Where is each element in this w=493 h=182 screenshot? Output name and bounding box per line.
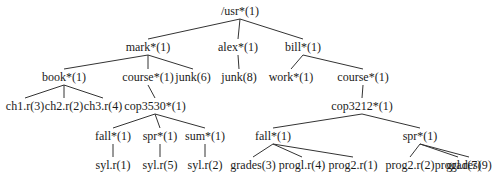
tree-node-syl-fall: syl.r(1) — [96, 159, 131, 171]
tree-node-cop3212: cop3212*(1) — [331, 100, 392, 112]
tree-edge — [273, 144, 353, 157]
tree-node-ch2: ch2.r(2) — [45, 100, 83, 112]
tree-node-fall-3530: fall*(1) — [95, 130, 131, 142]
tree-edge — [238, 19, 240, 39]
tree-node-grades3: grades(3) — [230, 159, 275, 171]
tree-node-ch3: ch3.r(4) — [84, 100, 122, 112]
tree-edge — [148, 19, 240, 39]
tree-node-sum-3530: sum*(1) — [185, 130, 225, 142]
tree-node-prog1-4: progl.r(4) — [279, 159, 325, 171]
tree-node-book: book*(1) — [42, 71, 86, 83]
tree-node-syl-sum: syl.r(2) — [188, 159, 223, 171]
tree-node-cop3530: cop3530*(1) — [124, 100, 185, 112]
tree-edge — [410, 144, 420, 157]
tree-node-ch1: ch1.r(3) — [6, 100, 44, 112]
tree-node-course-mark: course*(1) — [122, 71, 173, 83]
tree-edge — [64, 55, 148, 69]
tree-node-prog2-1: prog2.r(1) — [329, 159, 378, 171]
tree-node-grades9: grades(9) — [446, 159, 491, 171]
tree-node-usr: /usr*(1) — [221, 5, 259, 17]
tree-edge — [64, 85, 103, 98]
tree-edge — [25, 85, 64, 98]
tree-edge — [155, 114, 205, 128]
tree-node-bill: bill*(1) — [285, 41, 321, 53]
tree-node-mark: mark*(1) — [126, 41, 171, 53]
tree-edge — [273, 114, 362, 128]
tree-node-course-bill: course*(1) — [337, 71, 388, 83]
tree-node-junk8: junk(8) — [221, 71, 256, 83]
tree-node-syl-spr: syl.r(5) — [143, 159, 178, 171]
tree-edge — [238, 55, 239, 69]
tree-edge — [148, 85, 155, 98]
tree-edge — [362, 85, 363, 98]
tree-edges — [0, 0, 493, 182]
tree-edge — [253, 144, 273, 157]
tree-edge — [240, 19, 303, 39]
tree-node-alex: alex*(1) — [218, 41, 258, 53]
tree-node-work: work*(1) — [269, 71, 314, 83]
tree-edge — [291, 55, 303, 69]
tree-node-spr-3530: spr*(1) — [143, 130, 178, 142]
tree-node-fall-3212: fall*(1) — [255, 130, 291, 142]
tree-edge — [362, 114, 420, 128]
tree-edge — [155, 114, 160, 128]
tree-edge — [420, 144, 469, 157]
tree-node-junk6: junk(6) — [175, 71, 210, 83]
tree-edge — [113, 114, 155, 128]
tree-edge — [303, 55, 363, 69]
tree-node-spr-3212: spr*(1) — [403, 130, 438, 142]
tree-node-prog2-2: prog2.r(2) — [386, 159, 435, 171]
tree-edge — [148, 55, 193, 69]
directory-tree-diagram: /usr*(1)mark*(1)alex*(1)bill*(1)book*(1)… — [0, 0, 493, 182]
